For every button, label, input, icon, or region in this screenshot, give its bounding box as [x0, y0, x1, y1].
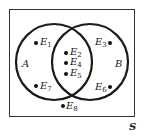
element-dot-e2: [64, 51, 68, 55]
element-label-e1: E1: [40, 37, 52, 49]
element-dot-e6: [108, 85, 112, 89]
element-dot-e1: [34, 41, 38, 45]
element-label-e8: E8: [66, 101, 78, 113]
element-label-e7: E7: [40, 81, 52, 93]
element-dot-e5: [64, 72, 68, 76]
set-a-label: A: [22, 58, 29, 69]
set-b-label: B: [115, 58, 122, 69]
element-label-e3: E3: [95, 37, 107, 49]
element-dot-e4: [64, 61, 68, 65]
element-dot-e3: [108, 41, 112, 45]
universe-label: S: [129, 121, 136, 132]
element-label-e5: E5: [70, 68, 82, 80]
element-dot-e8: [61, 104, 65, 108]
element-label-e6: E6: [95, 82, 107, 94]
element-dot-e7: [34, 84, 38, 88]
